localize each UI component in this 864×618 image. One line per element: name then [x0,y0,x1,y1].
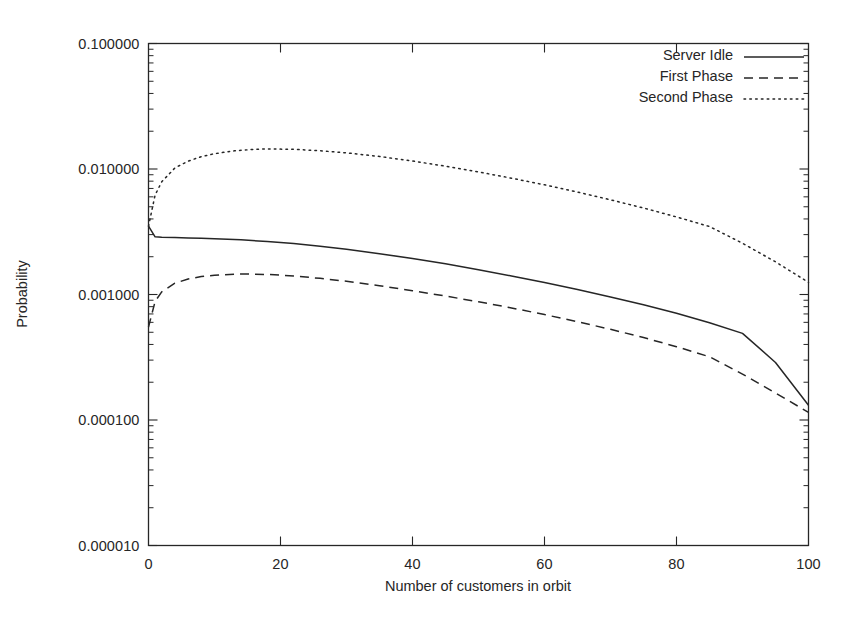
y-tick-label: 0.000100 [78,412,139,428]
y-axis-label: Probability [14,260,30,328]
legend-line-sample [743,49,805,61]
y-tick-label: 0.100000 [78,36,139,52]
x-tick-label: 100 [796,556,821,572]
series-line-first-phase [149,274,809,412]
legend-item: Server Idle [600,44,805,65]
series-line-server-idle [149,226,809,405]
y-tick-label: 0.010000 [78,161,139,177]
chart-figure: 0.1000000.0100000.0010000.0001000.000010… [0,0,864,618]
x-tick-label: 20 [272,556,288,572]
series-line-second-phase [149,149,809,282]
legend-label: Server Idle [663,47,733,63]
legend-item: Second Phase [600,86,805,107]
legend-label: Second Phase [639,89,733,105]
x-tick-label: 80 [668,556,684,572]
legend-line-sample [743,91,805,103]
x-axis-label: Number of customers in orbit [385,578,571,594]
legend-label: First Phase [660,68,733,84]
y-tick-label: 0.000010 [78,538,139,554]
y-tick-label: 0.001000 [78,287,139,303]
x-tick-label: 40 [404,556,420,572]
x-tick-label: 0 [144,556,152,572]
chart-legend: Server IdleFirst PhaseSecond Phase [600,44,805,107]
x-tick-label: 60 [536,556,552,572]
axes-frame [149,44,809,546]
data-series-group [149,149,809,412]
legend-item: First Phase [600,65,805,86]
axis-ticks [149,44,809,546]
legend-line-sample [743,70,805,82]
